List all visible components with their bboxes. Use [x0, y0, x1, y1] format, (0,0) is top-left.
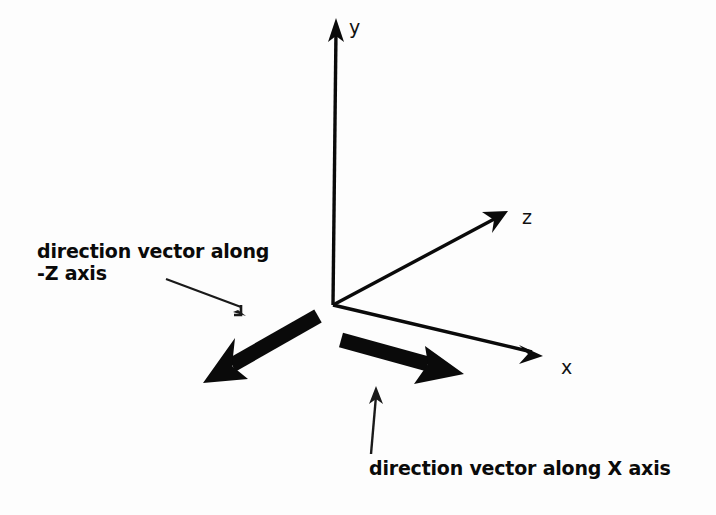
negative-z-annotation-line2: -Z axis — [37, 262, 269, 284]
positive-x-leader-line — [371, 396, 376, 454]
positive-x-annotation-line1: direction vector along X axis — [369, 457, 671, 479]
x-axis — [333, 305, 543, 364]
positive-x-annotation: direction vector along X axis — [369, 457, 671, 479]
y-axis-line — [333, 30, 336, 305]
diagram-canvas: y z x direction vector along -Z axis dir… — [0, 0, 716, 515]
y-axis — [328, 18, 344, 305]
x-axis-arrowhead — [519, 345, 543, 364]
negative-z-vector-shaft — [232, 316, 318, 365]
x-axis-label: x — [561, 358, 572, 377]
positive-x-leader-arrow — [369, 386, 383, 454]
z-axis — [333, 211, 508, 305]
positive-x-vector-shaft — [341, 340, 428, 364]
negative-z-annotation: direction vector along -Z axis — [37, 240, 269, 284]
z-axis-line — [333, 217, 498, 305]
positive-x-direction-vector — [341, 340, 464, 384]
y-axis-label: y — [349, 18, 360, 37]
negative-z-annotation-line1: direction vector along — [37, 240, 269, 262]
negative-z-direction-vector — [203, 316, 318, 383]
z-axis-label: z — [522, 208, 532, 227]
negative-z-leader-arrow — [166, 279, 246, 316]
